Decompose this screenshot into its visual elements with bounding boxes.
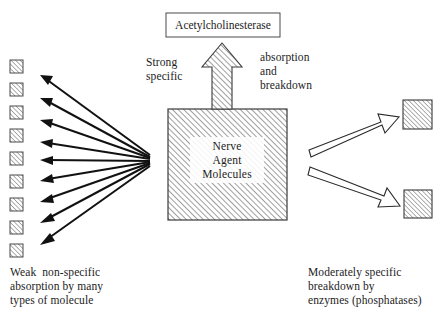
left-square	[10, 129, 23, 142]
strong-specific-label: Strong specific	[146, 55, 183, 83]
acetylcholinesterase-label: Acetylcholinesterase	[166, 13, 280, 37]
right-arrow-up	[309, 114, 399, 157]
left-arrow	[40, 119, 150, 158]
nerve-agent-absorption-diagram: Acetylcholinesterase Strong specific abs…	[0, 0, 442, 319]
left-square	[10, 106, 23, 119]
nerve-agent-molecules-label: Nerve Agent Molecules	[190, 137, 264, 183]
left-arrow	[40, 98, 150, 157]
left-caption-weak-nonspecific: Weak non-specific absorption by many typ…	[10, 265, 103, 307]
up-arrow-absorption	[202, 43, 242, 109]
left-square	[10, 83, 23, 96]
left-square	[10, 244, 23, 257]
left-square	[10, 152, 23, 165]
right-breakdown-arrows	[308, 114, 400, 207]
left-arrow	[40, 75, 150, 155]
left-arrow	[40, 163, 150, 203]
right-arrow-down	[308, 167, 400, 207]
right-square-top	[403, 100, 432, 129]
left-square	[10, 60, 23, 73]
absorption-and-breakdown-label: absorption and breakdown	[260, 50, 312, 92]
left-arrow	[40, 164, 150, 223]
left-absorption-arrows	[40, 75, 150, 245]
right-square-bottom	[404, 190, 432, 218]
left-molecule-squares	[10, 60, 23, 257]
left-square	[10, 221, 23, 234]
left-square	[10, 198, 23, 211]
right-caption-moderately-specific: Moderately specific breakdown by enzymes…	[308, 265, 422, 307]
left-square	[10, 175, 23, 188]
right-product-squares	[403, 100, 432, 218]
